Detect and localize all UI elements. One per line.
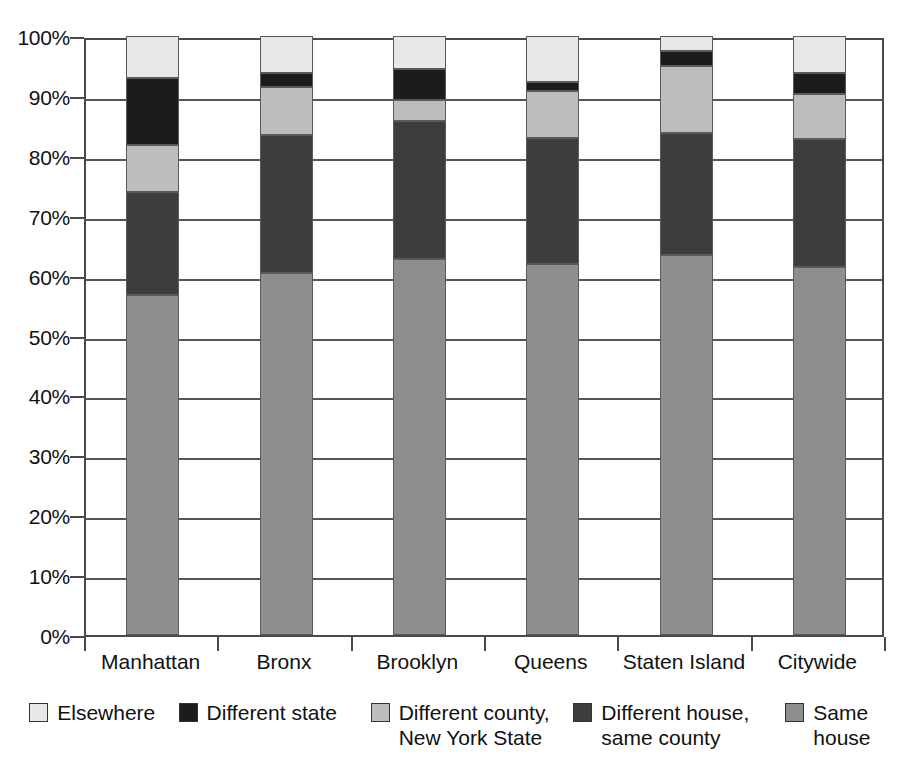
bar-segment[interactable] [526,138,579,264]
y-tick-label: 90% [8,86,70,110]
bar-segment[interactable] [126,78,179,145]
x-tick-mark [617,637,619,651]
legend-swatch-icon [785,703,804,722]
chart-legend: ElsewhereDifferent stateDifferent county… [28,700,908,770]
bar-segment[interactable] [393,69,446,100]
bar-segment[interactable] [393,121,446,259]
legend-swatch-icon [179,703,198,722]
bar-segment[interactable] [526,82,579,91]
bar-segment[interactable] [393,259,446,635]
y-tick-label: 30% [8,445,70,469]
legend-label: Different state [207,700,337,725]
y-tick-label: 0% [8,625,70,649]
y-tick-mark [70,37,84,39]
bar-staten-island[interactable] [660,36,713,635]
gridline-90% [86,99,882,101]
x-tick-label-queens: Queens [514,650,588,674]
legend-label: Different county, New York State [399,700,550,750]
gridline-20% [86,518,882,520]
bar-segment[interactable] [793,267,846,635]
y-tick-mark [70,636,84,638]
legend-item-different-house[interactable]: Different house, same county [573,700,749,750]
bar-manhattan[interactable] [126,36,179,635]
bar-segment[interactable] [260,73,313,87]
y-tick-label: 80% [8,146,70,170]
y-tick-label: 100% [8,26,70,50]
y-tick-label: 10% [8,565,70,589]
x-tick-mark [751,637,753,651]
gridline-10% [86,578,882,580]
bar-bronx[interactable] [260,36,313,635]
bar-segment[interactable] [260,87,313,135]
bar-segment[interactable] [260,36,313,73]
legend-label: Different house, same county [601,700,749,750]
bar-segment[interactable] [526,36,579,82]
bar-segment[interactable] [660,36,713,51]
bar-segment[interactable] [660,133,713,255]
bar-segment[interactable] [660,51,713,66]
legend-item-same-house[interactable]: Same house [785,700,908,750]
y-tick-label: 20% [8,505,70,529]
bar-segment[interactable] [126,295,179,635]
bar-segment[interactable] [793,73,846,94]
x-tick-label-manhattan: Manhattan [101,650,200,674]
y-tick-label: 70% [8,206,70,230]
x-tick-mark [484,637,486,651]
gridline-50% [86,339,882,341]
y-tick-mark [70,456,84,458]
bar-segment[interactable] [660,255,713,635]
legend-label: Same house [813,700,908,750]
y-tick-mark [70,337,84,339]
legend-label: Elsewhere [57,700,155,725]
bar-segment[interactable] [393,100,446,121]
bar-segment[interactable] [526,91,579,138]
gridline-80% [86,159,882,161]
y-tick-mark [70,97,84,99]
y-tick-mark [70,516,84,518]
x-tick-label-bronx: Bronx [257,650,312,674]
bar-queens[interactable] [526,36,579,635]
gridline-70% [86,219,882,221]
plot-area [84,38,884,637]
bar-brooklyn[interactable] [393,36,446,635]
bar-segment[interactable] [660,66,713,133]
y-tick-mark [70,396,84,398]
y-tick-label: 50% [8,326,70,350]
bar-segment[interactable] [126,145,179,192]
x-tick-label-brooklyn: Brooklyn [376,650,458,674]
gridline-30% [86,458,882,460]
y-tick-label: 60% [8,266,70,290]
x-tick-mark [84,637,86,651]
y-tick-mark [70,157,84,159]
bar-citywide[interactable] [793,36,846,635]
x-tick-label-staten-island: Staten Island [623,650,746,674]
x-tick-mark [351,637,353,651]
bar-segment[interactable] [126,192,179,295]
bar-segment[interactable] [793,94,846,139]
bar-segment[interactable] [126,36,179,78]
legend-item-different-county[interactable]: Different county, New York State [371,700,550,750]
bar-segment[interactable] [260,135,313,273]
y-tick-label: 40% [8,385,70,409]
stacked-bar-chart: 0%10%20%30%40%50%60%70%80%90%100% Manhat… [0,0,919,780]
legend-swatch-icon [371,703,390,722]
x-tick-label-citywide: Citywide [778,650,857,674]
x-tick-mark [217,637,219,651]
bar-segment[interactable] [793,36,846,73]
gridline-60% [86,279,882,281]
y-tick-mark [70,576,84,578]
bar-segment[interactable] [393,36,446,69]
y-tick-mark [70,277,84,279]
bar-segment[interactable] [793,139,846,267]
bar-segment[interactable] [526,264,579,635]
legend-item-different-state[interactable]: Different state [179,700,337,725]
x-tick-mark [884,637,886,651]
legend-item-elsewhere[interactable]: Elsewhere [29,700,155,725]
legend-swatch-icon [573,703,592,722]
legend-swatch-icon [29,703,48,722]
y-tick-mark [70,217,84,219]
gridline-40% [86,398,882,400]
bar-segment[interactable] [260,273,313,635]
